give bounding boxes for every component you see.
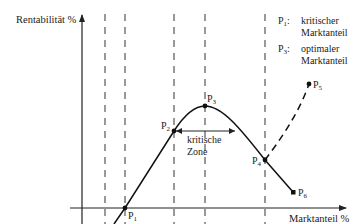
x-axis-label: Marktanteil %	[289, 213, 350, 224]
legend-p3-key: P3:	[278, 43, 290, 56]
legend-p1-key: P1:	[278, 15, 290, 28]
point-p5	[307, 82, 312, 87]
legend-p3-line1: optimaler	[301, 43, 340, 54]
critical-zone-label-line1: kritische	[187, 134, 222, 145]
rentability-curve	[114, 106, 293, 224]
point-p3	[203, 104, 208, 109]
label-p5: P5	[313, 79, 323, 92]
label-p6: P6	[298, 187, 308, 200]
rentability-diagram: Rentabilität % Marktanteil % P1 P2 P3 P4…	[0, 0, 359, 224]
optimal-branch-curve	[265, 84, 309, 160]
point-p4	[263, 158, 268, 163]
legend: P1: kritischer Marktanteil P3: optimaler…	[278, 15, 348, 66]
legend-p1-line1: kritischer	[301, 15, 339, 26]
legend-p1-line2: Marktanteil	[301, 27, 348, 38]
point-p1	[123, 206, 128, 211]
point-p6	[291, 190, 296, 195]
critical-zone-label-line2: Zone	[187, 146, 208, 157]
legend-p3-line2: Marktanteil	[301, 55, 348, 66]
label-p1: P1	[128, 210, 138, 223]
label-p2: P2	[161, 120, 171, 133]
label-p4: P4	[252, 155, 262, 168]
point-p2	[172, 129, 177, 134]
label-p3: P3	[207, 93, 217, 106]
y-axis-label: Rentabilität %	[16, 14, 77, 25]
